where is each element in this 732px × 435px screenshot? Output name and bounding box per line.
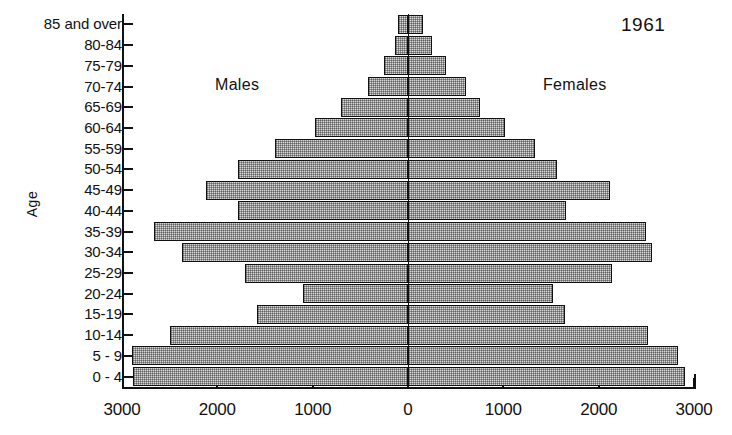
y-axis-tick-label: 55-59 (4, 141, 122, 156)
bar-female (408, 139, 535, 158)
bar-male (341, 98, 408, 117)
bar-female (408, 346, 678, 365)
females-series-label: Females (543, 76, 606, 94)
y-axis-tick (124, 86, 133, 88)
year-label: 1961 (621, 14, 665, 36)
y-axis-tick (124, 189, 133, 191)
x-axis-tick-label: 2000 (182, 400, 252, 420)
y-axis-tick-label: 75-79 (4, 58, 122, 73)
y-axis-tick-label: 30-34 (4, 244, 122, 259)
y-axis-tick-label: 40-44 (4, 203, 122, 218)
y-axis-tick-label: 65-69 (4, 99, 122, 114)
bar-male (368, 77, 408, 96)
x-axis-tick-label: 1000 (278, 400, 348, 420)
y-axis-tick (124, 334, 133, 336)
y-axis-tick-label: 15-19 (4, 306, 122, 321)
bar-female (408, 305, 565, 324)
y-axis-tick (124, 272, 133, 274)
y-axis-tick (124, 44, 133, 46)
bar-female (408, 201, 566, 220)
bar-male (257, 305, 408, 324)
bar-male (395, 36, 408, 55)
x-axis-tick-label: 1000 (468, 400, 538, 420)
y-axis-tick (124, 376, 133, 378)
x-axis-line (122, 387, 696, 389)
y-axis-tick (124, 313, 133, 315)
bar-female (408, 284, 553, 303)
y-axis-tick-label: 0 - 4 (4, 369, 122, 384)
y-axis-line (122, 14, 124, 387)
plot-area (122, 14, 694, 387)
bar-male (154, 222, 408, 241)
y-axis-tick-labels: 85 and over80-8475-7970-7465-6960-6455-5… (0, 0, 122, 435)
bar-female (408, 36, 432, 55)
bar-female (408, 15, 423, 34)
bar-female (408, 98, 480, 117)
y-axis-tick (124, 231, 133, 233)
bar-male (238, 201, 408, 220)
y-axis-tick-label: 45-49 (4, 182, 122, 197)
bar-male (384, 56, 408, 75)
bar-male (170, 326, 408, 345)
bar-female (408, 264, 612, 283)
y-axis-tick (124, 106, 133, 108)
y-axis-tick (124, 65, 133, 67)
bar-female (408, 181, 610, 200)
y-axis-tick-label: 70-74 (4, 79, 122, 94)
bar-male (303, 284, 408, 303)
x-axis-tick (693, 378, 695, 389)
bar-female (408, 243, 652, 262)
bar-male (315, 118, 408, 137)
y-axis-tick (124, 251, 133, 253)
y-axis-tick (124, 127, 133, 129)
bar-female (408, 160, 557, 179)
bar-female (408, 56, 446, 75)
bar-female (408, 222, 646, 241)
y-axis-tick (124, 293, 133, 295)
males-series-label: Males (215, 76, 259, 94)
y-axis-tick-label: 5 - 9 (4, 348, 122, 363)
y-axis-tick (124, 210, 133, 212)
y-axis-tick-label: 50-54 (4, 161, 122, 176)
bar-male (275, 139, 408, 158)
y-axis-tick-label: 20-24 (4, 286, 122, 301)
x-axis-tick-label: 3000 (659, 400, 729, 420)
x-axis-tick-label: 0 (373, 400, 443, 420)
population-pyramid-chart: Age 85 and over80-8475-7970-7465-6960-64… (0, 0, 732, 435)
bar-male (132, 346, 408, 365)
y-axis-tick (124, 168, 133, 170)
x-axis-tick-label: 3000 (87, 400, 157, 420)
y-axis-tick (124, 148, 133, 150)
bar-male (206, 181, 408, 200)
bar-male (182, 243, 408, 262)
x-axis-tick-label: 2000 (564, 400, 634, 420)
y-axis-tick (124, 23, 133, 25)
bar-male (133, 367, 408, 386)
bar-male (238, 160, 408, 179)
bar-female (408, 326, 648, 345)
bar-male (245, 264, 408, 283)
y-axis-tick-label: 25-29 (4, 265, 122, 280)
y-axis-tick-label: 60-64 (4, 120, 122, 135)
bar-female (408, 367, 685, 386)
y-axis-tick-label: 10-14 (4, 327, 122, 342)
y-axis-tick-label: 35-39 (4, 224, 122, 239)
bar-female (408, 118, 505, 137)
y-axis-tick-label: 85 and over (4, 16, 122, 31)
bar-male (398, 15, 408, 34)
y-axis-tick-label: 80-84 (4, 37, 122, 52)
bar-female (408, 77, 466, 96)
